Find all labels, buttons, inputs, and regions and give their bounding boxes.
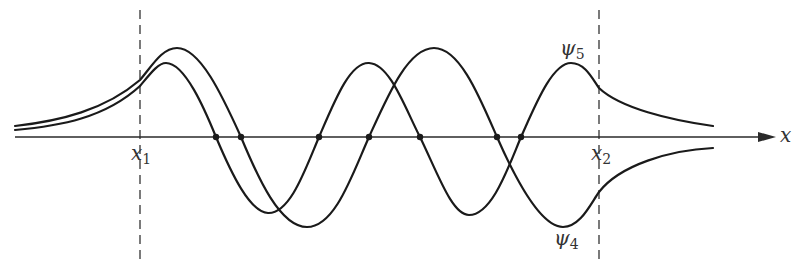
wavefunction-diagram: x1 x2 x ψ5 ψ4 [0,0,797,273]
node-dot [213,134,219,140]
node-dot [238,134,244,140]
node-dot [366,134,372,140]
psi4-curve [15,63,713,215]
node-dot [417,134,423,140]
x1-label-base: x [131,141,142,165]
psi4-label-subscript: 4 [570,236,579,252]
node-dot [518,134,524,140]
x-axis-label: x [780,125,791,145]
x1-label-subscript: 1 [142,151,151,167]
x2-label-base: x [591,141,602,165]
node-dot [494,134,500,140]
psi4-label: ψ4 [554,228,579,251]
psi5-label-subscript: 5 [576,46,585,62]
x1-label: x1 [131,143,151,166]
node-dot [316,134,322,140]
psi5-label: ψ5 [560,38,585,61]
x2-label: x2 [591,143,611,166]
x-axis-label-text: x [780,123,791,147]
x2-label-subscript: 2 [602,151,611,167]
x-axis-arrowhead-icon [758,132,776,142]
diagram-canvas [0,0,797,273]
psi4-label-base: ψ [554,226,570,250]
psi5-label-base: ψ [560,36,576,60]
